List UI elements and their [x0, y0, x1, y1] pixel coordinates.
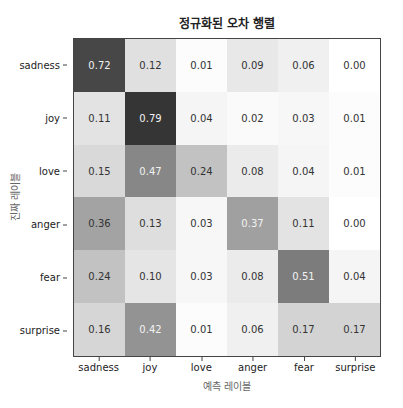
- y-tick-label: anger: [31, 219, 67, 230]
- heatmap-cell: 0.04: [278, 145, 329, 198]
- heatmap-cell: 0.06: [227, 303, 278, 356]
- heatmap-cell: 0.15: [74, 145, 125, 198]
- heatmap-cell: 0.06: [278, 39, 329, 92]
- x-tick-label: sadness: [78, 362, 119, 373]
- heatmap-cell: 0.11: [74, 92, 125, 145]
- y-axis-label: 진짜 레이블: [7, 173, 22, 221]
- heatmap-cell: 0.01: [176, 303, 227, 356]
- heatmap-cell: 0.03: [176, 250, 227, 303]
- heatmap-cell: 0.01: [329, 92, 380, 145]
- heatmap-cell: 0.51: [278, 250, 329, 303]
- heatmap-cell: 0.72: [74, 39, 125, 92]
- heatmap-cell: 0.36: [74, 197, 125, 250]
- heatmap-cell: 0.08: [227, 250, 278, 303]
- heatmap-cell: 0.13: [125, 197, 176, 250]
- y-tick-label: love: [39, 165, 67, 176]
- y-tick-label: joy: [45, 112, 67, 123]
- heatmap-cell: 0.16: [74, 303, 125, 356]
- heatmap-cell: 0.09: [227, 39, 278, 92]
- x-axis-label: 예측 레이블: [73, 378, 381, 393]
- heatmap-cell: 0.01: [329, 145, 380, 198]
- heatmap-cell: 0.00: [329, 39, 380, 92]
- heatmap-cell: 0.04: [176, 92, 227, 145]
- x-tick-label: joy: [143, 362, 158, 373]
- heatmap-cell: 0.37: [227, 197, 278, 250]
- heatmap-cell: 0.17: [278, 303, 329, 356]
- heatmap-cell: 0.24: [176, 145, 227, 198]
- x-tick-label: love: [191, 362, 212, 373]
- heatmap-cell: 0.79: [125, 92, 176, 145]
- heatmap-cell: 0.12: [125, 39, 176, 92]
- heatmap-cell: 0.00: [329, 197, 380, 250]
- heatmap-cell: 0.08: [227, 145, 278, 198]
- heatmap-cell: 0.24: [74, 250, 125, 303]
- y-tick-label: fear: [40, 272, 67, 283]
- x-tick-label: anger: [238, 362, 267, 373]
- heatmap-plot-area: 0.720.120.010.090.060.000.110.790.040.02…: [73, 38, 381, 357]
- x-tick-label: fear: [294, 362, 314, 373]
- heatmap-cell: 0.17: [329, 303, 380, 356]
- heatmap-cell: 0.47: [125, 145, 176, 198]
- heatmap-cell: 0.42: [125, 303, 176, 356]
- y-tick-label: surprise: [20, 325, 67, 336]
- heatmap-cell: 0.10: [125, 250, 176, 303]
- chart-title: 정규화된 오차 행렬: [73, 14, 381, 31]
- y-tick-label: sadness: [19, 59, 67, 70]
- heatmap-cell: 0.03: [278, 92, 329, 145]
- heatmap-cell: 0.03: [176, 197, 227, 250]
- heatmap-cell: 0.11: [278, 197, 329, 250]
- heatmap-cell: 0.01: [176, 39, 227, 92]
- heatmap-cell: 0.04: [329, 250, 380, 303]
- heatmap-cell: 0.02: [227, 92, 278, 145]
- x-tick-label: surprise: [335, 362, 375, 373]
